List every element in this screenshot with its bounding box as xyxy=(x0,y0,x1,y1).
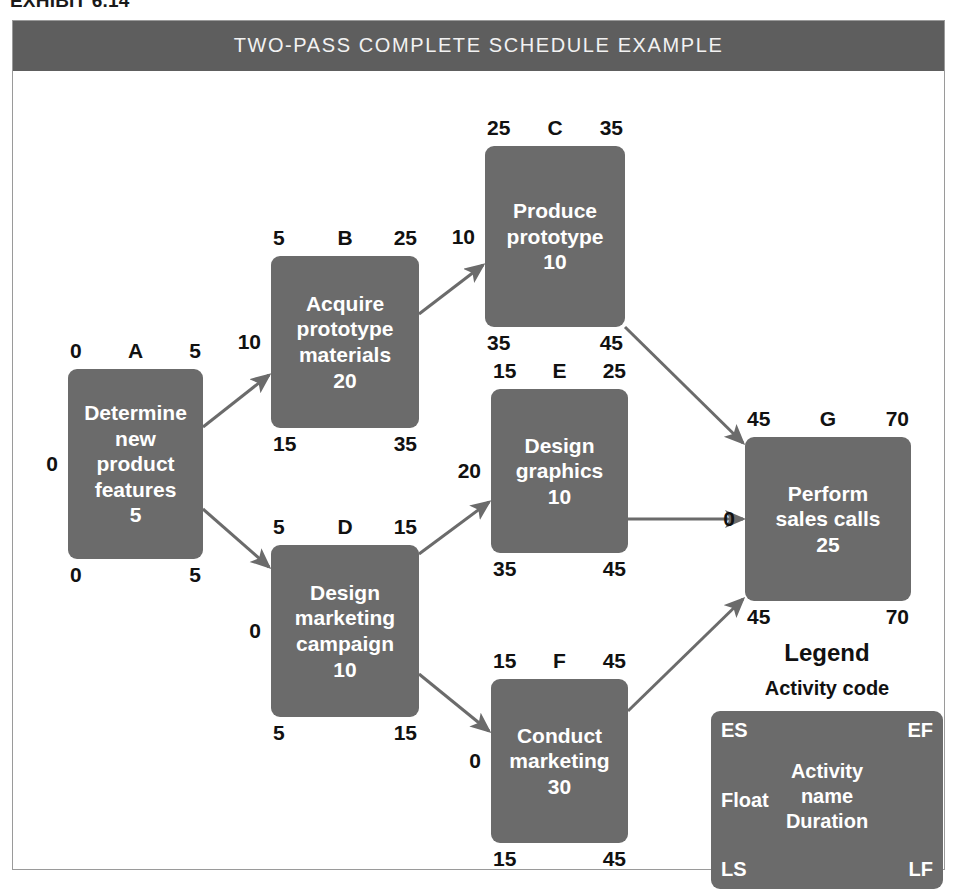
activity-node-b: Acquire prototype materials20 xyxy=(271,256,419,428)
activity-duration: 10 xyxy=(543,249,566,275)
figure-title: TWO-PASS COMPLETE SCHEDULE EXAMPLE xyxy=(13,34,944,57)
legend-ef-label: EF xyxy=(907,719,933,742)
node-d-es: 5 xyxy=(273,515,285,539)
node-d-ef: 15 xyxy=(394,515,417,539)
legend-lf-label: LF xyxy=(909,858,933,881)
activity-duration: 10 xyxy=(548,484,571,510)
node-a-ls: 0 xyxy=(70,563,82,587)
figure-title-bar: TWO-PASS COMPLETE SCHEDULE EXAMPLE xyxy=(13,21,944,71)
node-a-float: 0 xyxy=(46,452,58,476)
figure-frame: TWO-PASS COMPLETE SCHEDULE EXAMPLE Deter… xyxy=(12,20,945,870)
node-g-lf: 70 xyxy=(886,605,909,629)
edge-c-to-g xyxy=(625,327,743,443)
node-e-code: E xyxy=(552,359,566,383)
node-b-float: 10 xyxy=(238,330,261,354)
network-diagram-canvas: Determine new product features50A5050Acq… xyxy=(13,71,944,869)
node-e-es: 15 xyxy=(493,359,516,383)
legend-title: Legend xyxy=(693,639,957,667)
edge-d-to-e xyxy=(419,502,489,554)
edge-d-to-f xyxy=(419,674,489,731)
activity-node-e: Design graphics10 xyxy=(491,389,628,553)
node-f-ef: 45 xyxy=(603,649,626,673)
activity-name: Design graphics xyxy=(516,433,604,484)
node-c-code: C xyxy=(547,116,562,140)
activity-node-c: Produce prototype10 xyxy=(485,146,625,327)
activity-name: Acquire prototype materials xyxy=(297,291,394,368)
edge-b-to-c xyxy=(419,265,483,314)
node-e-float: 20 xyxy=(458,459,481,483)
legend-es-label: ES xyxy=(721,719,748,742)
legend: Legend Activity code ES EF Float Activit… xyxy=(693,639,957,893)
activity-name: Determine new product features xyxy=(84,400,187,502)
node-b-ls: 15 xyxy=(273,432,296,456)
node-f-float: 0 xyxy=(469,749,481,773)
node-e-lf: 45 xyxy=(603,557,626,581)
node-d-float: 0 xyxy=(249,619,261,643)
activity-name: Conduct marketing xyxy=(509,723,609,774)
node-a-es: 0 xyxy=(70,339,82,363)
activity-duration: 25 xyxy=(816,532,839,558)
legend-activity-code-label: Activity code xyxy=(693,677,957,700)
node-g-ef: 70 xyxy=(886,407,909,431)
node-d-lf: 15 xyxy=(394,721,417,745)
activity-name: Design marketing campaign xyxy=(295,580,395,657)
node-c-ls: 35 xyxy=(487,331,510,355)
node-b-code: B xyxy=(337,226,352,250)
activity-duration: 5 xyxy=(130,502,142,528)
node-c-float: 10 xyxy=(452,225,475,249)
node-d-ls: 5 xyxy=(273,721,285,745)
activity-node-a: Determine new product features5 xyxy=(68,369,203,559)
node-f-code: F xyxy=(553,649,566,673)
node-f-ls: 15 xyxy=(493,847,516,871)
node-d-code: D xyxy=(337,515,352,539)
node-b-lf: 35 xyxy=(394,432,417,456)
activity-node-d: Design marketing campaign10 xyxy=(271,545,419,717)
node-c-lf: 45 xyxy=(600,331,623,355)
activity-node-f: Conduct marketing30 xyxy=(491,679,628,843)
node-c-es: 25 xyxy=(487,116,510,140)
activity-duration: 10 xyxy=(333,657,356,683)
activity-node-g: Perform sales calls25 xyxy=(745,437,911,601)
node-g-es: 45 xyxy=(747,407,770,431)
node-c-ef: 35 xyxy=(600,116,623,140)
edge-a-to-b xyxy=(203,375,269,427)
activity-duration: 30 xyxy=(548,774,571,800)
node-g-ls: 45 xyxy=(747,605,770,629)
node-a-ef: 5 xyxy=(189,339,201,363)
node-g-code: G xyxy=(820,407,836,431)
activity-duration: 20 xyxy=(333,368,356,394)
node-f-lf: 45 xyxy=(603,847,626,871)
node-g-float: 0 xyxy=(723,507,735,531)
activity-name: Perform sales calls xyxy=(775,481,880,532)
node-a-lf: 5 xyxy=(189,563,201,587)
activity-name: Produce prototype xyxy=(507,198,604,249)
exhibit-caption: EXHIBIT 6.14 xyxy=(10,0,130,12)
edge-a-to-d xyxy=(203,509,269,567)
node-b-ef: 25 xyxy=(394,226,417,250)
node-a-code: A xyxy=(128,339,143,363)
legend-activity-name-duration-label: Activity name Duration xyxy=(711,759,943,834)
node-b-es: 5 xyxy=(273,226,285,250)
legend-ls-label: LS xyxy=(721,858,747,881)
node-f-es: 15 xyxy=(493,649,516,673)
node-e-ls: 35 xyxy=(493,557,516,581)
node-e-ef: 25 xyxy=(603,359,626,383)
legend-node-box: ES EF Float Activity name Duration LS LF xyxy=(711,711,943,889)
